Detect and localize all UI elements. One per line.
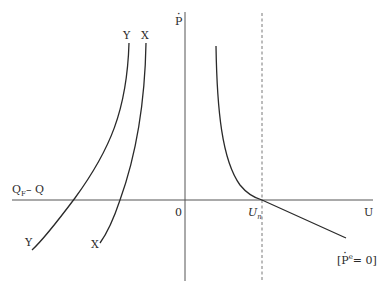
horizontal-left-label: QF– Q xyxy=(12,184,44,198)
curve-x-top-label: X xyxy=(141,30,149,41)
origin-label: 0 xyxy=(175,207,182,218)
horizontal-right-label: U xyxy=(364,207,373,218)
curve-y-bottom-label: Y xyxy=(25,237,32,248)
p-dot-label: P xyxy=(175,16,182,27)
natural-rate-label: Un xyxy=(248,207,262,221)
curve-y xyxy=(32,43,129,250)
curve-x-bottom-label: X xyxy=(91,239,99,250)
curve-y-top-label: Y xyxy=(123,30,130,41)
vertical-axis-label: P xyxy=(175,16,182,27)
curve-expected-inflation-label: [Pe= 0] xyxy=(337,254,377,266)
curve-expected-inflation-zero xyxy=(216,46,346,238)
curve-x xyxy=(100,43,146,243)
diagram-canvas xyxy=(0,0,382,289)
